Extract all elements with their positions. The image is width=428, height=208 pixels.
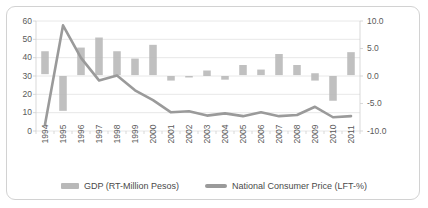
x-axis-tick-label: 2003 — [203, 125, 212, 144]
legend-item-gdp[interactable]: GDP (RT-Million Pesos) — [61, 181, 179, 191]
x-axis-tick-label: 1998 — [113, 125, 122, 144]
bar — [275, 54, 283, 75]
bar — [113, 51, 121, 75]
legend-label-gdp: GDP (RT-Million Pesos) — [84, 181, 179, 191]
bar — [257, 70, 265, 76]
left-axis-tick-label: 0 — [10, 127, 32, 136]
bar — [311, 73, 319, 80]
x-axis-tick-label: 2008 — [293, 125, 302, 144]
x-axis-tick-label: 2001 — [167, 125, 176, 144]
line-series — [45, 25, 351, 124]
x-axis-tick-label: 2007 — [275, 125, 284, 144]
left-axis-tick-label: 10 — [10, 108, 32, 117]
bar — [329, 76, 337, 101]
x-axis-tick-label: 2000 — [149, 125, 158, 144]
bar — [41, 51, 49, 74]
left-axis-tick-label: 60 — [10, 17, 32, 26]
left-axis-tick-label: 30 — [10, 72, 32, 81]
right-axis-tick-label: -10.0 — [367, 127, 386, 136]
x-axis-tick-label: 1995 — [59, 125, 68, 144]
bar — [59, 76, 67, 111]
x-axis-tick-label: 2002 — [185, 125, 194, 144]
left-axis-tick-label: 40 — [10, 53, 32, 62]
x-axis-tick-label: 2004 — [221, 125, 230, 144]
x-axis-tick-label: 1999 — [131, 125, 140, 144]
legend-label-consumer-price: National Consumer Price (LFT-%) — [232, 181, 367, 191]
bar — [167, 76, 175, 81]
bar — [95, 38, 103, 76]
right-axis-tick-label: -5.0 — [367, 99, 382, 108]
x-axis-tick-label: 2010 — [329, 125, 338, 144]
bar — [149, 45, 157, 75]
bar — [239, 65, 247, 75]
bar — [203, 71, 211, 77]
x-axis-tick-label: 1997 — [95, 125, 104, 144]
legend-item-consumer-price[interactable]: National Consumer Price (LFT-%) — [205, 181, 367, 191]
left-axis-tick-label: 20 — [10, 90, 32, 99]
x-axis-tick-label: 2009 — [311, 125, 320, 144]
bar — [347, 52, 355, 75]
line-swatch-icon — [205, 184, 227, 188]
x-axis-tick-label: 1996 — [77, 125, 86, 144]
x-axis-tick-label: 2011 — [347, 125, 356, 143]
bar-swatch-icon — [61, 183, 79, 189]
x-axis-tick-label: 2005 — [239, 125, 248, 144]
x-axis-tick-label: 2006 — [257, 125, 266, 144]
bar — [131, 59, 139, 75]
chart-legend: GDP (RT-Million Pesos) National Consumer… — [0, 176, 428, 196]
bar — [185, 76, 193, 78]
right-axis-tick-label: 5.0 — [367, 44, 379, 53]
right-axis-tick-label: 10.0 — [367, 17, 384, 26]
bar — [293, 65, 301, 75]
left-axis-tick-label: 50 — [10, 35, 32, 44]
right-axis-tick-label: 0.0 — [367, 72, 379, 81]
bar — [221, 76, 229, 80]
x-axis-tick-label: 1994 — [41, 125, 50, 144]
